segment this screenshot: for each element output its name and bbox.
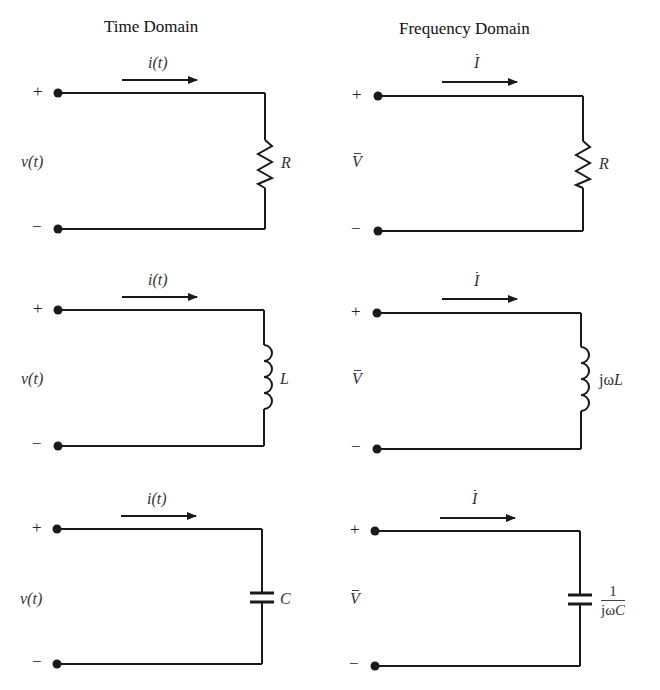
minus-sign: − [32,652,42,672]
voltage-label: v(t) [21,153,43,171]
negative-terminal-icon [374,227,383,236]
resistor-icon [576,141,590,188]
voltage-label: v(t) [20,590,42,608]
capacitor-label: C [280,590,291,608]
phasor-current-text: I [474,54,479,72]
freq-inductor-circuit [377,299,589,449]
phasor-voltage-label: V [352,370,362,388]
minus-sign: − [32,434,42,454]
time-resistor-circuit [58,80,272,229]
current-label: i(t) [147,490,167,508]
minus-sign: − [32,217,42,237]
phasor-voltage-label: V [350,590,360,608]
resistor-icon [258,140,272,188]
impedance-var: L [614,371,623,388]
positive-terminal-icon [54,306,63,315]
phasor-current-label: I [472,490,477,508]
inductor-icon [581,347,589,411]
denominator-var: C [615,602,625,618]
negative-terminal-icon [53,660,62,669]
capacitor-impedance-fraction: 1 jωC [601,583,625,619]
inductor-impedance-label: jωL [599,371,623,389]
phasor-current-label: I [474,272,479,290]
negative-terminal-icon [373,445,382,454]
negative-terminal-icon [54,442,63,451]
phasor-voltage-label: V [352,153,362,171]
time-capacitor-circuit [57,516,274,664]
plus-sign: + [351,302,361,322]
positive-terminal-icon [53,525,62,534]
plus-sign: + [350,520,360,540]
current-label: i(t) [148,271,168,289]
resistor-label: R [281,154,291,172]
resistor-label: R [599,155,609,173]
negative-terminal-icon [371,662,380,671]
phasor-voltage-text: V [352,153,362,171]
minus-sign: − [349,654,359,674]
positive-terminal-icon [371,527,380,536]
inductor-icon [264,345,272,409]
current-label: i(t) [148,54,168,72]
fraction-denominator: jωC [601,601,625,619]
positive-terminal-icon [373,309,382,318]
phasor-current-text: I [472,490,477,508]
minus-sign: − [351,219,361,239]
minus-sign: − [351,437,361,457]
circuit-diagram [0,0,660,690]
plus-sign: + [33,299,43,319]
denominator-prefix: jω [601,602,615,618]
phasor-current-label: I [474,54,479,72]
time-domain-heading: Time Domain [104,17,198,37]
negative-terminal-icon [54,225,63,234]
freq-capacitor-circuit [375,518,592,666]
voltage-label: v(t) [21,370,43,388]
time-inductor-circuit [58,297,272,446]
freq-resistor-circuit [378,82,590,231]
positive-terminal-icon [374,92,383,101]
phasor-voltage-text: V [350,590,360,608]
plus-sign: + [32,518,42,538]
plus-sign: + [352,85,362,105]
phasor-voltage-text: V [352,370,362,388]
impedance-prefix: jω [599,371,614,388]
inductor-label: L [280,370,289,388]
positive-terminal-icon [54,89,63,98]
plus-sign: + [33,82,43,102]
phasor-current-text: I [474,272,479,290]
fraction-numerator: 1 [609,583,617,600]
frequency-domain-heading: Frequency Domain [399,19,530,39]
